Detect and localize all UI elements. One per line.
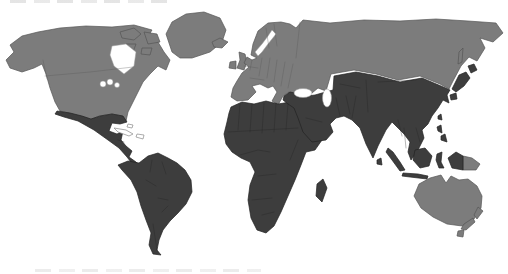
- great-lake-water: [115, 83, 120, 88]
- black-sea-water: [294, 89, 312, 98]
- region-ireland: [229, 61, 236, 69]
- great-lake-water: [107, 79, 113, 85]
- cropped-text-fragment-bottom: [35, 269, 261, 272]
- caspian-sea-water: [323, 89, 332, 107]
- region-tasmania: [457, 230, 464, 237]
- world-choropleth-map: [0, 0, 508, 274]
- world-map-screenshot: [0, 0, 508, 274]
- cropped-text-fragment-top: [10, 0, 168, 3]
- great-lake-water: [100, 81, 106, 87]
- region-arctic-island: [141, 48, 152, 55]
- region-bahamas: [127, 124, 133, 128]
